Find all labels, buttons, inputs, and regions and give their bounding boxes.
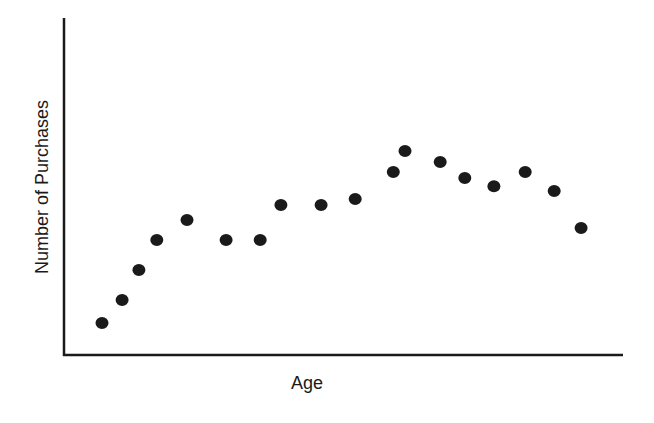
data-point: [487, 180, 500, 192]
x-axis-label: Age: [291, 373, 323, 394]
data-point: [548, 185, 561, 197]
y-axis-label: Number of Purchases: [32, 100, 53, 274]
data-points: [96, 145, 588, 329]
data-point: [519, 166, 532, 178]
data-point: [575, 222, 588, 234]
data-point: [315, 199, 328, 211]
data-point: [274, 199, 287, 211]
data-point: [116, 294, 129, 306]
data-point: [220, 234, 233, 246]
data-point: [458, 172, 471, 184]
data-point: [349, 193, 362, 205]
data-point: [132, 264, 145, 276]
scatter-chart: [0, 0, 654, 423]
data-point: [399, 145, 412, 157]
data-point: [254, 234, 267, 246]
data-point: [150, 234, 163, 246]
data-point: [181, 214, 194, 226]
data-point: [387, 166, 400, 178]
data-point: [96, 317, 109, 329]
data-point: [434, 156, 447, 168]
